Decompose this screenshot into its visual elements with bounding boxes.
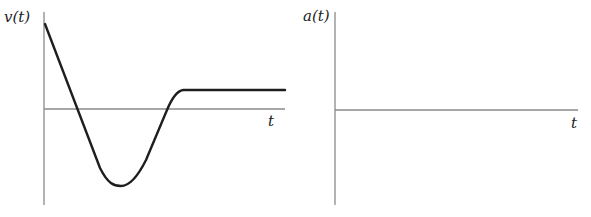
v-x-axis-label: t [268,112,275,130]
velocity-curve [45,24,285,186]
acceleration-plot: a(t) t [295,0,591,217]
a-x-axis-label: t [571,114,578,132]
a-y-axis-label: a(t) [303,7,330,25]
velocity-graph: v(t) t [0,0,295,217]
acceleration-graph: a(t) t [295,0,591,217]
velocity-plot: v(t) t [0,0,295,217]
v-y-axis-label: v(t) [4,8,30,26]
